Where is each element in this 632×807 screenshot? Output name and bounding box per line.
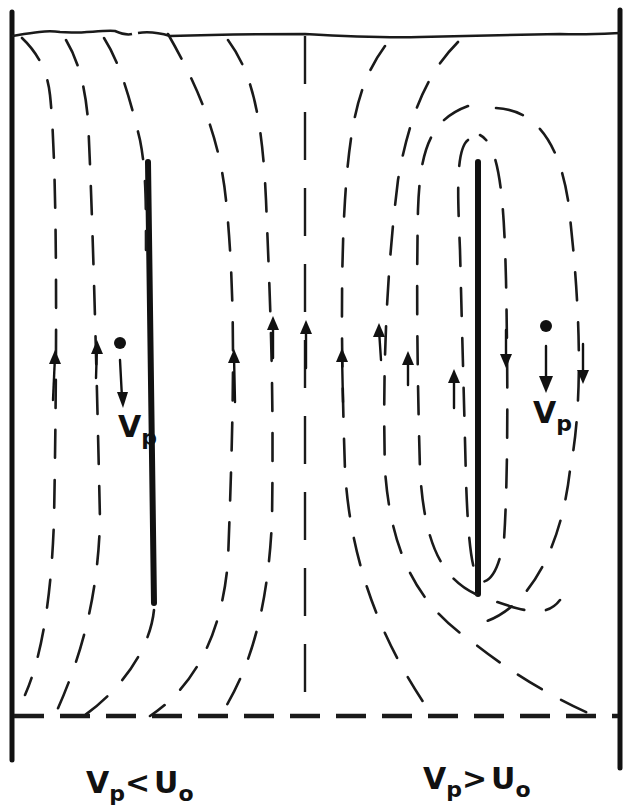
velocity-subscript: p: [556, 411, 572, 436]
right-condition-label: Vp>Uo: [423, 764, 531, 801]
left-particle-down-arrow-icon: [117, 360, 128, 408]
fluid-velocity-symbol: U: [154, 765, 178, 800]
up-arrow-icon: [402, 351, 414, 385]
velocity-symbol: V: [86, 765, 109, 800]
fluid-velocity-subscript: o: [178, 781, 193, 806]
up-arrow-icon: [228, 349, 240, 402]
fluid-velocity-subscript: o: [515, 777, 530, 802]
left-particle-velocity-label: Vp: [118, 412, 157, 449]
greater-than-operator: >: [462, 761, 487, 796]
right-particle-down-arrow-icon: [539, 346, 553, 393]
velocity-symbol: V: [533, 395, 556, 430]
up-arrow-icon: [336, 348, 348, 402]
left-condition-label: Vp<Uo: [86, 768, 194, 805]
up-arrow-icon: [373, 323, 385, 360]
velocity-subscript: p: [446, 777, 462, 802]
less-than-operator: <: [125, 765, 150, 800]
right-particle-velocity-label: Vp: [533, 398, 572, 435]
free-surface: [12, 31, 620, 37]
up-arrow-icon: [267, 316, 279, 358]
up-arrow-icon: [448, 369, 460, 408]
fluid-velocity-symbol: U: [491, 761, 515, 796]
down-arrow-icon: [500, 330, 512, 368]
right-particle: [540, 320, 552, 332]
up-arrow-icon: [91, 340, 103, 378]
velocity-symbol: V: [423, 761, 446, 796]
left-particle: [114, 337, 126, 349]
velocity-subscript: p: [141, 425, 157, 450]
velocity-subscript: p: [109, 781, 125, 806]
left-particle-path: [148, 162, 154, 603]
velocity-symbol: V: [118, 409, 141, 444]
right-streamlines: [342, 42, 590, 714]
up-arrow-icon: [300, 320, 312, 368]
